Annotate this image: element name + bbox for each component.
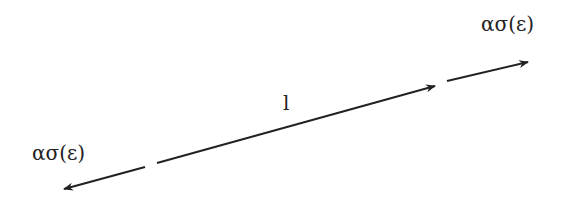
- member-length-arrow: [157, 86, 435, 163]
- label-length: l: [283, 91, 289, 115]
- left-force-arrow: [64, 167, 145, 189]
- label-force-left: ασ(ε): [32, 141, 85, 165]
- label-force-top-right: ασ(ε): [481, 12, 534, 36]
- right-force-arrow: [447, 62, 528, 81]
